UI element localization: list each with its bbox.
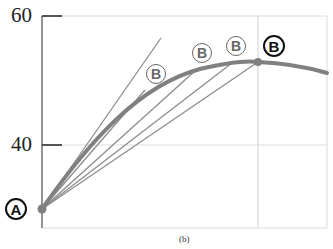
y-tick-label-40: 40 [11, 132, 32, 157]
figure-caption: (b) [179, 234, 190, 244]
point-b-label-final: B [263, 35, 285, 57]
point-b-label-1: B [146, 64, 166, 84]
secant-line-2 [42, 70, 196, 209]
point-a-label: A [5, 198, 27, 220]
point-b-label-2: B [192, 43, 212, 63]
diagram-canvas [0, 0, 333, 249]
point-b-label-3: B [226, 36, 246, 56]
secant-line-4 [42, 62, 258, 209]
point-b-dot [254, 58, 262, 66]
point-a-dot [38, 205, 47, 214]
y-tick-label-60: 60 [11, 3, 32, 28]
curve [42, 62, 327, 209]
secant-line-3 [42, 63, 232, 209]
